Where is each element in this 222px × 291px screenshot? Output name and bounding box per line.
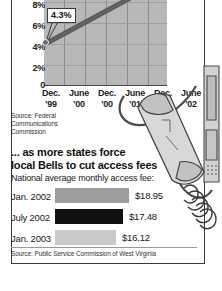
fees-row-value: $17.48 xyxy=(129,211,157,222)
x-tick-year: '00 xyxy=(93,99,121,110)
x-axis-tick-labels: Dec. '99 June '00 Dec. '00 June '01 Dec.… xyxy=(37,88,205,114)
line-chart-source-line-1: Source: Federal xyxy=(11,112,97,120)
line-chart-source: Source: Federal Communications Commissio… xyxy=(11,112,97,137)
fees-row: Jan. 2003 $16.12 xyxy=(11,230,205,248)
fees-row-bar xyxy=(55,188,129,203)
chart-callout-4-3-percent: 4.3% xyxy=(47,8,76,23)
fees-subheadline: National average monthly access fee: xyxy=(11,173,154,183)
fees-row-value: $16.12 xyxy=(122,232,150,243)
fees-row: July 2002 $17.48 xyxy=(11,209,205,227)
x-tick-year: '02 xyxy=(177,99,205,110)
fees-rows: Jan. 2002 $18.95 July 2002 $17.48 Jan. 2… xyxy=(11,188,205,251)
fees-row-bar xyxy=(55,230,116,245)
fees-row-value: $18.95 xyxy=(135,190,163,201)
x-tick-month: Dec. xyxy=(154,88,172,98)
x-tick-year: '00 xyxy=(65,99,93,110)
x-tick-month: June xyxy=(125,88,145,98)
fees-bar-chart-block: ... as more states force local Bells to … xyxy=(11,142,205,266)
x-tick-month: June xyxy=(69,88,89,98)
x-axis-tick-1: June '00 xyxy=(65,88,93,114)
fees-row-bar xyxy=(55,209,123,224)
fees-row-label: Jan. 2003 xyxy=(11,233,51,244)
x-axis-tick-5: June '02 xyxy=(177,88,205,114)
x-tick-month: June xyxy=(181,88,201,98)
line-chart-block: 8% 6% 4% 2% 0 4.3% Dec. '99 June xyxy=(11,0,205,140)
fees-row-label: July 2002 xyxy=(11,212,50,223)
chart-data-point-marker xyxy=(42,39,49,46)
fees-source-divider xyxy=(11,247,197,248)
x-tick-year: '01 xyxy=(121,99,149,110)
x-tick-month: Dec. xyxy=(42,88,60,98)
x-axis-tick-0: Dec. '99 xyxy=(37,88,65,114)
fees-source: Source: Public Service Commission of Wes… xyxy=(11,250,156,257)
line-chart-source-line-2: Communications xyxy=(11,120,97,128)
fees-row: Jan. 2002 $18.95 xyxy=(11,188,205,206)
x-tick-month: Dec. xyxy=(98,88,116,98)
x-axis-tick-2: Dec. '00 xyxy=(93,88,121,114)
fees-headline-line-2: local Bells to cut access fees xyxy=(11,159,157,171)
x-tick-year: '99 xyxy=(37,99,65,110)
line-chart-plot-wrap: 8% 6% 4% 2% 0 4.3% xyxy=(11,0,205,92)
x-axis-tick-3: June '01 xyxy=(121,88,149,114)
line-chart-source-line-3: Commission xyxy=(11,128,97,136)
fees-row-label: Jan. 2002 xyxy=(11,191,51,202)
fees-headline-line-1: ... as more states force xyxy=(11,146,125,158)
x-axis-tick-4: Dec. '01 xyxy=(149,88,177,114)
x-tick-year: '01 xyxy=(149,99,177,110)
infographic-root: 8% 6% 4% 2% 0 4.3% Dec. '99 June xyxy=(0,0,222,291)
